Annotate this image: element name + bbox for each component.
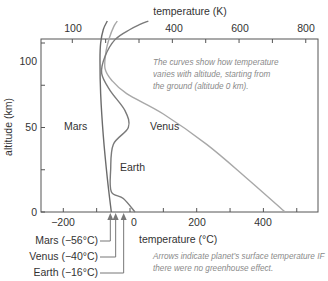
note-line: there were no greenhouse effect. [153, 264, 273, 273]
y-tick-label: 0 [31, 206, 37, 218]
arrows-annotation: Arrows indicate planet’s surface tempera… [152, 252, 325, 273]
y-axis-tick-labels: 0 50 100 [19, 55, 37, 218]
top-tick-label: 100 [64, 22, 82, 34]
arrow-leader-line [100, 219, 124, 273]
bottom-axis-title: temperature (°C) [139, 233, 217, 245]
bottom-tick-label: 200 [188, 216, 206, 228]
note-line: Arrows indicate planet’s surface tempera… [152, 252, 325, 261]
y-axis-title: altitude (km) [2, 98, 14, 156]
arrow-label-earth: Earth (−16°C) [33, 266, 98, 278]
curve-venus [105, 21, 285, 212]
top-tick-label: 600 [231, 22, 249, 34]
series-label-earth: Earth [120, 161, 145, 173]
top-axis-tick-labels: 100 400 600 800 [64, 22, 315, 34]
arrow-up-icon [107, 213, 113, 220]
bottom-axis-tick-labels: −200 0 200 400 [51, 216, 272, 228]
arrow-label-venus: Venus (−40°C) [29, 250, 98, 262]
series-label-venus: Venus [150, 120, 179, 132]
temperature-altitude-chart: temperature (K) 100 400 600 800 altitude… [0, 0, 328, 281]
top-tick-label: 400 [165, 22, 183, 34]
bottom-tick-label: 0 [131, 216, 137, 228]
arrow-up-icon [121, 213, 127, 220]
arrow-leader-line [100, 219, 110, 241]
arrow-leader-line [100, 219, 116, 257]
y-tick-label: 100 [19, 55, 37, 67]
bottom-tick-label: 400 [254, 216, 272, 228]
note-line: The curves show how temperature [153, 58, 279, 67]
top-axis-title: temperature (K) [153, 5, 227, 17]
note-line: the ground (altitude 0 km). [153, 82, 249, 91]
no-greenhouse-arrow-labels: Mars (−56°C) Venus (−40°C) Earth (−16°C) [29, 234, 98, 278]
curves-annotation: The curves show how temperature varies w… [153, 58, 279, 91]
y-tick-label: 50 [25, 121, 37, 133]
note-line: varies with altitude, starting from [153, 70, 271, 79]
series-label-mars: Mars [64, 120, 87, 132]
bottom-tick-label: −200 [51, 216, 75, 228]
top-tick-label: 800 [297, 22, 315, 34]
arrow-up-icon [113, 213, 119, 220]
arrow-label-mars: Mars (−56°C) [35, 234, 98, 246]
